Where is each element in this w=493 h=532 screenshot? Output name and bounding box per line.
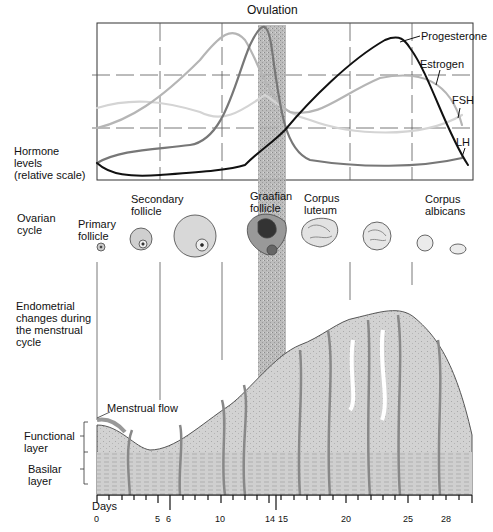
functional-layer-label: Functional layer: [24, 430, 75, 454]
corpus-luteum-label: Corpus luteum: [304, 192, 339, 216]
day-tick-10: 10: [215, 514, 225, 524]
day-tick-5: 5: [155, 514, 160, 524]
ovarian-cycle-label: Ovarian cycle: [17, 212, 56, 236]
secondary-follicle-large: [174, 215, 216, 257]
hormone-levels-label: Hormone levels (relative scale): [14, 145, 86, 181]
day-tick-25: 25: [403, 514, 413, 524]
secondary-follicle-label: Secondary follicle: [131, 193, 184, 217]
endometrial-label: Endometrial changes during the menstrual…: [16, 300, 91, 348]
menstrual-flow-label: Menstrual flow: [107, 402, 178, 414]
day-tick-28: 28: [441, 514, 451, 524]
day-tick-20: 20: [341, 514, 351, 524]
basilar-layer-label: Basilar layer: [28, 463, 62, 487]
days-label: Days: [92, 500, 117, 512]
day-tick-14: 14: [265, 514, 275, 524]
ovulation-title: Ovulation: [247, 4, 298, 16]
legend-estrogen: Estrogen: [420, 58, 464, 70]
corpus-luteum: [302, 218, 338, 247]
graafian-follicle-label: Graafian follicle: [250, 190, 292, 214]
legend-fsh: FSH: [452, 94, 474, 106]
legend-progesterone: Progesterone: [421, 30, 487, 42]
legend-lh: LH: [456, 136, 470, 148]
days-axis: [97, 495, 472, 510]
basilar-layer: [97, 452, 472, 495]
day-tick-6: 6: [166, 514, 171, 524]
corpus-albicans-large: [417, 235, 433, 251]
day-tick-0: 0: [94, 514, 99, 524]
day-tick-15: 15: [278, 514, 288, 524]
corpus-albicans-label: Corpus albicans: [425, 193, 465, 217]
primary-follicle-label: Primary follicle: [78, 218, 116, 242]
corpus-albicans-small: [450, 244, 466, 254]
corpus-luteum-regressing: [363, 222, 391, 250]
